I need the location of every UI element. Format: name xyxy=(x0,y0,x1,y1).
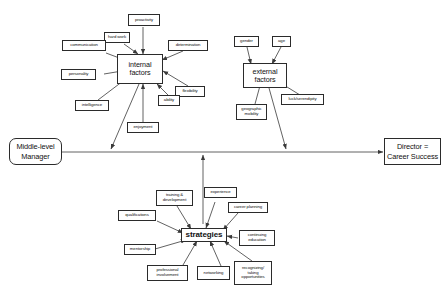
node-label: external factors xyxy=(245,68,285,84)
edge-experience-to-strategies xyxy=(206,202,215,228)
node-label: communication xyxy=(64,43,104,48)
node-gender[interactable]: gender xyxy=(234,36,259,47)
node-label: training & development xyxy=(158,193,191,202)
node-strategies[interactable]: strategies xyxy=(181,228,227,242)
node-label: luck/serendipity xyxy=(283,97,322,102)
node-experience[interactable]: experience xyxy=(204,187,237,198)
node-internal-factors[interactable]: internal factors xyxy=(117,54,163,84)
edge-training-to-strategies xyxy=(177,206,191,229)
node-label: Middle-level Manager xyxy=(11,142,60,161)
edge-flexibility-to-internal xyxy=(163,71,188,86)
node-luck-serendipity[interactable]: luck/serendipity xyxy=(281,94,324,105)
node-communication[interactable]: communication xyxy=(62,40,106,51)
node-geographic-mobility[interactable]: geographic mobility xyxy=(236,104,267,120)
node-networking[interactable]: networking xyxy=(197,266,230,280)
node-label: qualifications xyxy=(120,213,154,218)
edge-qualifications-to-strategies xyxy=(157,221,183,233)
node-label: geographic mobility xyxy=(238,107,265,116)
node-director-career-success[interactable]: Director = Career Success xyxy=(384,138,441,165)
node-label: enjoyment xyxy=(129,125,157,130)
node-external-factors[interactable]: external factors xyxy=(243,63,287,88)
node-age[interactable]: age xyxy=(272,36,291,47)
node-proactivity[interactable]: proactivity xyxy=(128,14,160,26)
node-hard-work[interactable]: hard work xyxy=(104,32,130,43)
node-enjoyment[interactable]: enjoyment xyxy=(127,122,159,133)
node-training-development[interactable]: training & development xyxy=(156,190,193,206)
node-career-planning[interactable]: career planning xyxy=(228,202,268,213)
edge-ability-to-internal xyxy=(157,84,168,95)
node-label: professional involvement xyxy=(149,268,186,277)
concept-map-canvas: Middle-level Manager Director = Career S… xyxy=(0,0,447,304)
edge-determination-to-internal xyxy=(162,51,183,60)
edge-networking-to-strategies xyxy=(210,241,221,266)
edge-gender-to-external xyxy=(247,47,251,64)
edge-internal-to-spine xyxy=(111,84,139,149)
node-label: personality xyxy=(63,72,94,77)
node-label: age xyxy=(274,39,289,44)
node-determination[interactable]: determination xyxy=(168,40,208,51)
edge-hardwork-to-internal xyxy=(124,44,138,54)
node-label: ability xyxy=(160,98,178,103)
node-professional-involvement[interactable]: professional involvement xyxy=(147,265,188,281)
node-label: hard work xyxy=(106,35,128,40)
node-label: recognizing/ taking opportunities xyxy=(236,266,270,280)
node-recognizing-opportunities[interactable]: recognizing/ taking opportunities xyxy=(234,261,272,285)
node-mentorship[interactable]: mentorship xyxy=(124,244,156,255)
node-label: strategies xyxy=(183,231,225,240)
node-label: flexibility xyxy=(177,89,203,94)
node-intelligence[interactable]: intelligence xyxy=(75,100,109,111)
edge-professional-to-strategies xyxy=(183,241,197,265)
edge-age-to-external xyxy=(272,47,281,64)
node-label: mentorship xyxy=(126,247,154,252)
node-label: proactivity xyxy=(130,18,158,23)
node-qualifications[interactable]: qualifications xyxy=(118,210,156,221)
node-label: continuing education xyxy=(241,233,273,242)
node-personality[interactable]: personality xyxy=(61,69,96,80)
node-label: internal factors xyxy=(119,61,161,77)
node-label: networking xyxy=(199,271,228,276)
node-label: intelligence xyxy=(77,103,107,108)
node-label: Director = Career Success xyxy=(386,142,439,161)
edge-continuing-to-strategies xyxy=(227,236,238,238)
node-ability[interactable]: ability xyxy=(158,95,180,106)
node-label: determination xyxy=(170,43,206,48)
node-label: career planning xyxy=(230,205,266,210)
node-continuing-education[interactable]: continuing education xyxy=(239,230,275,246)
node-label: experience xyxy=(206,190,235,195)
node-middle-level-manager[interactable]: Middle-level Manager xyxy=(9,138,62,165)
node-label: gender xyxy=(236,39,257,44)
